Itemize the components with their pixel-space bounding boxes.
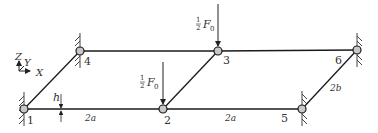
node-label-4: 4	[84, 55, 91, 68]
svg-text:1: 1	[140, 74, 144, 82]
node-label-2: 2	[164, 114, 171, 127]
axis-y-label: Y	[24, 57, 32, 68]
truss-diagram: 1 2 3 4 5 6 1 2 F 0 1 2 F 0 h 2a 2a 2b Z…	[0, 0, 378, 133]
node-1	[20, 105, 28, 113]
member-1-4	[24, 51, 80, 109]
node-label-3: 3	[223, 54, 230, 67]
dimension-2a-right: 2a	[224, 113, 236, 123]
load-label-node-2: 1 2 F 0	[140, 74, 158, 91]
node-label-1: 1	[27, 114, 34, 127]
axis-x-label: X	[35, 67, 44, 78]
svg-text:2: 2	[196, 24, 200, 32]
axes-triad: Z Y X	[14, 51, 44, 78]
load-label-node-3: 1 2 F 0	[196, 16, 214, 33]
node-6	[353, 46, 361, 54]
svg-text:0: 0	[154, 83, 158, 91]
node-3	[214, 47, 222, 55]
node-5	[298, 105, 306, 113]
svg-text:0: 0	[210, 25, 214, 33]
dimension-h: h	[53, 91, 61, 122]
svg-text:2: 2	[140, 82, 144, 90]
svg-text:h: h	[53, 91, 60, 104]
member-3-6	[218, 50, 357, 51]
node-2	[159, 105, 167, 113]
axis-z-label: Z	[14, 51, 23, 62]
truss-svg: 1 2 3 4 5 6 1 2 F 0 1 2 F 0 h 2a 2a 2b Z…	[0, 0, 378, 133]
node-label-5: 5	[281, 112, 288, 125]
member-2-3	[163, 51, 218, 109]
dimension-2b: 2b	[329, 83, 342, 93]
node-4	[76, 47, 84, 55]
svg-text:1: 1	[196, 16, 200, 24]
node-label-6: 6	[335, 54, 342, 67]
truss-members	[24, 50, 357, 109]
member-5-6	[302, 50, 357, 109]
dimension-2a-left: 2a	[84, 113, 96, 123]
